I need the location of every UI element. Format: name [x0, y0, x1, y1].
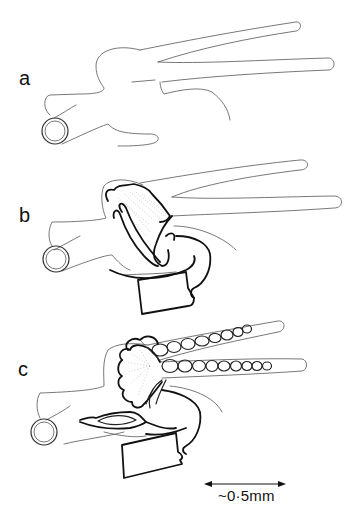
tube-cross-section-b: [43, 246, 69, 272]
arrow-right-icon: [278, 481, 286, 487]
panel-a-drawing: [42, 22, 334, 146]
figure-drawing: [0, 0, 362, 518]
tube-cross-section-c: [31, 419, 57, 445]
scale-bar: [204, 481, 286, 487]
arrow-left-icon: [204, 481, 212, 487]
panel-b-drawing: [43, 160, 342, 314]
panel-c-drawing: [31, 321, 307, 478]
tube-cross-section-a: [42, 118, 68, 144]
